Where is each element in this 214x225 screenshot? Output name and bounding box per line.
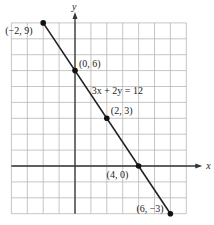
data-point bbox=[104, 116, 110, 122]
point-label: (6, −3) bbox=[136, 203, 163, 215]
line-graph: x y (−2, 9)(0, 6)(2, 3)(4, 0)(6, −3) 3x … bbox=[0, 0, 214, 225]
grid-lines bbox=[11, 23, 186, 214]
point-label: (4, 0) bbox=[107, 169, 129, 181]
x-axis-label: x bbox=[205, 160, 211, 171]
point-label: (2, 3) bbox=[111, 105, 133, 117]
data-point bbox=[40, 20, 46, 26]
x-axis-arrow-icon bbox=[195, 164, 202, 169]
y-axis-arrow-icon bbox=[73, 12, 78, 19]
data-point bbox=[72, 68, 78, 74]
data-point bbox=[136, 163, 142, 169]
equation-label: 3x + 2y = 12 bbox=[92, 85, 143, 96]
y-axis-label: y bbox=[71, 1, 77, 12]
data-point bbox=[168, 211, 174, 217]
point-label: (0, 6) bbox=[79, 58, 101, 70]
point-label: (−2, 9) bbox=[5, 25, 32, 37]
